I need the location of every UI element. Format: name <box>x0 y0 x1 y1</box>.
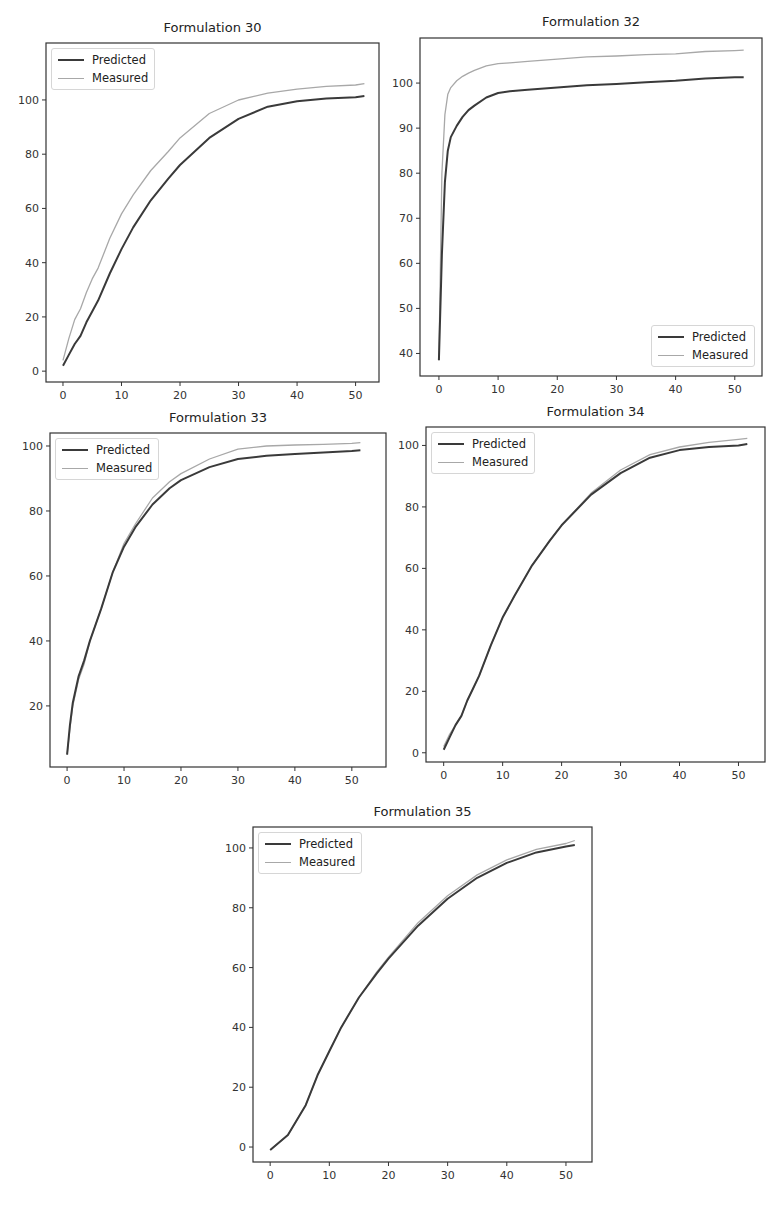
plot-area: 01020304050020406080100 <box>0 0 779 1221</box>
x-tick-label: 50 <box>559 1169 573 1182</box>
legend-label: Measured <box>299 855 355 869</box>
y-tick-label: 0 <box>239 1141 246 1154</box>
measured-line <box>270 841 575 1151</box>
legend-item-measured: Measured <box>265 853 355 871</box>
x-tick-label: 30 <box>441 1169 455 1182</box>
legend-label: Predicted <box>299 837 353 851</box>
x-tick-label: 40 <box>500 1169 514 1182</box>
chart-formulation-35: Formulation 35 01020304050020406080100 P… <box>0 0 779 1221</box>
predicted-line <box>270 845 575 1150</box>
x-tick-label: 0 <box>267 1169 274 1182</box>
y-tick-label: 60 <box>232 962 246 975</box>
axes-frame <box>253 827 592 1162</box>
legend: Predicted Measured <box>258 832 362 874</box>
y-tick-label: 100 <box>225 842 246 855</box>
legend-item-predicted: Predicted <box>265 835 355 853</box>
x-tick-label: 20 <box>381 1169 395 1182</box>
x-tick-label: 10 <box>322 1169 336 1182</box>
y-tick-label: 40 <box>232 1021 246 1034</box>
measured-line-swatch <box>265 862 291 863</box>
predicted-line-swatch <box>265 843 291 845</box>
y-tick-label: 20 <box>232 1081 246 1094</box>
y-tick-label: 80 <box>232 902 246 915</box>
